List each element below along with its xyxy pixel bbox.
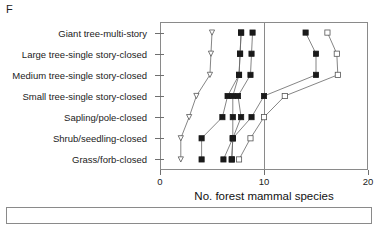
data-point xyxy=(236,157,241,162)
data-point xyxy=(187,115,192,120)
data-point xyxy=(334,51,339,56)
data-point xyxy=(313,51,318,56)
data-series xyxy=(229,30,318,162)
series-line xyxy=(232,33,316,160)
data-point xyxy=(313,72,318,77)
data-point xyxy=(325,30,330,35)
data-point xyxy=(248,136,253,141)
data-point xyxy=(199,157,204,162)
data-point xyxy=(335,72,340,77)
data-point xyxy=(208,51,213,56)
data-point xyxy=(261,115,266,120)
data-point xyxy=(207,72,212,77)
data-point xyxy=(225,93,230,98)
data-point xyxy=(236,72,241,77)
data-point xyxy=(230,115,235,120)
data-point xyxy=(199,136,204,141)
chart-panel: F Giant tree-multi-storyLarge tree-singl… xyxy=(0,0,380,227)
data-point xyxy=(261,93,266,98)
x-axis-title: No. forest mammal species xyxy=(160,190,368,202)
y-axis-label: Small tree-single story-closed xyxy=(22,91,147,102)
x-axis-tick xyxy=(264,170,265,175)
data-point xyxy=(230,136,235,141)
data-point xyxy=(239,30,244,35)
data-point xyxy=(249,115,254,120)
data-point xyxy=(221,157,226,162)
caption-box xyxy=(6,207,372,224)
data-point xyxy=(209,30,214,35)
data-point xyxy=(249,51,254,56)
data-point xyxy=(303,30,308,35)
series-svg xyxy=(160,22,368,170)
x-axis-tick-label: 20 xyxy=(363,176,374,187)
series-layer xyxy=(160,22,368,170)
data-point xyxy=(220,115,225,120)
panel-label: F xyxy=(6,3,13,15)
data-point xyxy=(248,72,253,77)
y-axis-label: Large tree-single story-closed xyxy=(22,48,147,59)
data-point xyxy=(250,30,255,35)
y-axis-label: Shrub/seedling-closed xyxy=(53,133,147,144)
data-point xyxy=(239,115,244,120)
data-point xyxy=(178,157,183,162)
data-point xyxy=(237,51,242,56)
y-axis-labels: Giant tree-multi-storyLarge tree-single … xyxy=(0,22,155,170)
y-axis-label: Grass/forb-closed xyxy=(72,154,147,165)
data-point xyxy=(229,157,234,162)
data-point xyxy=(282,93,287,98)
y-axis-label: Medium tree-single story-closed xyxy=(12,69,147,80)
x-axis-tick xyxy=(160,170,161,175)
x-axis-tick-label: 0 xyxy=(157,176,162,187)
x-axis-tick xyxy=(368,170,369,175)
y-axis-label: Sapling/pole-closed xyxy=(64,112,147,123)
y-axis-label: Giant tree-multi-story xyxy=(58,27,147,38)
data-series xyxy=(178,30,214,162)
x-axis-tick-label: 10 xyxy=(259,176,270,187)
data-point xyxy=(178,136,183,141)
data-point xyxy=(194,93,199,98)
data-point xyxy=(235,93,240,98)
data-point xyxy=(230,93,235,98)
